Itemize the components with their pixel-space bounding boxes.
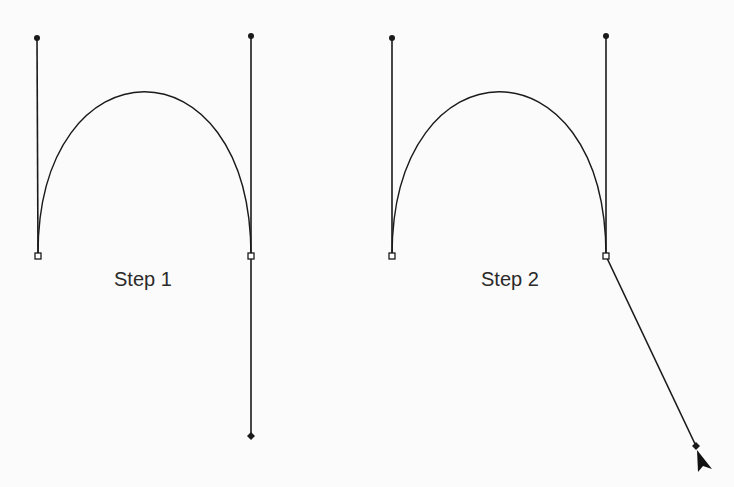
step-1-right-anchor-point[interactable] [248,253,254,259]
step-1-right-handle-out-point[interactable] [247,432,255,440]
step-2-curve-segment [392,92,606,256]
step-2-panel [389,33,712,472]
diagram-canvas [0,0,734,487]
step-2-right-handle-out-line [606,256,696,446]
step-1-left-handle-point[interactable] [34,35,40,41]
step-2-right-handle-out-point[interactable] [692,442,700,450]
step-2-right-handle-in-point[interactable] [603,33,609,39]
arrow-pointer-icon [697,450,712,472]
step-2-right-anchor-point[interactable] [603,253,609,259]
step-1-left-handle-line [37,38,38,256]
step-1-curve-segment [38,92,251,256]
step-2-left-handle-point[interactable] [389,35,395,41]
step-1-left-anchor-point[interactable] [35,253,41,259]
step-2-label: Step 2 [481,269,539,289]
step-1-panel [34,33,255,440]
step-1-label: Step 1 [114,269,172,289]
step-2-left-anchor-point[interactable] [389,253,395,259]
step-1-right-handle-in-point[interactable] [248,33,254,39]
